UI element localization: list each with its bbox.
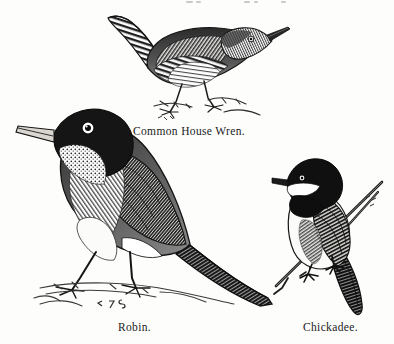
robin-engraver-mark: [98, 300, 125, 308]
wren-head: [221, 27, 290, 59]
caption-common-house-wren: Common House Wren.: [133, 126, 245, 138]
robin-head: [16, 109, 133, 184]
illustration-plate: Common House Wren. Robin. Chickadee.: [0, 0, 394, 344]
caption-robin: Robin.: [118, 322, 151, 334]
caption-chickadee: Chickadee.: [303, 322, 358, 334]
chickadee-engraving: [266, 148, 388, 318]
figure-chickadee: [266, 148, 388, 318]
